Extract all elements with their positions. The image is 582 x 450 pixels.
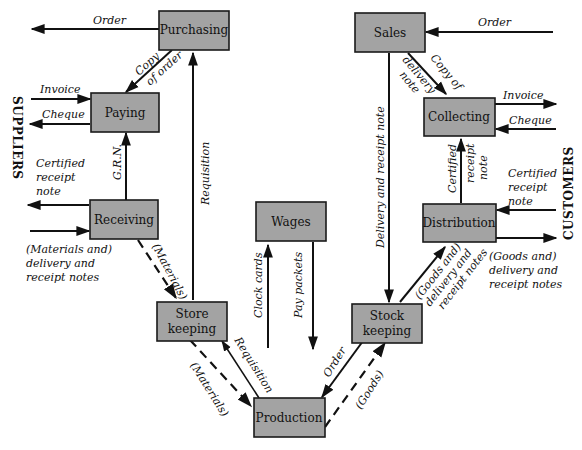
label-purchasing-order: Order (93, 14, 127, 27)
label-dist-cert-2: receipt (464, 143, 477, 183)
label-materials-to-production: (Materials) (187, 360, 231, 419)
svg-text:Paying: Paying (105, 106, 146, 120)
box-stock-keeping: Stock keeping (352, 304, 422, 343)
flow-diagram: SUPPLIERS CUSTOMERS Order Copy of order … (0, 0, 582, 450)
suppliers-label: SUPPLIERS (10, 96, 24, 180)
box-purchasing: Purchasing (159, 11, 229, 50)
svg-text:Store: Store (175, 307, 208, 321)
svg-text:Purchasing: Purchasing (160, 23, 229, 37)
box-store-keeping: Store keeping (157, 302, 227, 341)
label-dist-out-1: (Goods and) (489, 250, 556, 263)
label-receiving-in-2: delivery and (26, 257, 95, 270)
label-paying-cheque: Cheque (42, 108, 85, 121)
box-receiving: Receiving (90, 200, 158, 239)
label-paying-invoice: Invoice (39, 83, 81, 96)
label-cust-cert-2: receipt (508, 181, 548, 194)
svg-text:Receiving: Receiving (94, 213, 154, 227)
label-receiving-cert-2: receipt (36, 171, 76, 184)
svg-text:Collecting: Collecting (428, 110, 490, 124)
label-cust-cert-3: note (508, 195, 533, 208)
label-dist-cert-1: Certified (446, 144, 459, 193)
label-receiving-cert-3: note (36, 185, 61, 198)
svg-text:Sales: Sales (374, 26, 406, 40)
label-receiving-cert-1: Certified (36, 157, 85, 170)
svg-text:Production: Production (256, 411, 323, 425)
label-cust-cert-1: Certified (508, 167, 557, 180)
label-dist-cert-3: note (477, 155, 490, 180)
label-sales-order: Order (478, 16, 512, 29)
svg-text:keeping: keeping (363, 324, 412, 338)
svg-text:keeping: keeping (168, 322, 217, 336)
box-paying: Paying (91, 93, 159, 132)
label-receiving-in-1: (Materials and) (26, 243, 112, 256)
box-distribution: Distribution (422, 204, 496, 242)
label-order-production: Order (321, 344, 350, 380)
label-delivery-receipt: Delivery and receipt note (374, 106, 387, 249)
label-materials-to-store: (Materials) (149, 241, 190, 302)
label-collecting-cheque: Cheque (509, 114, 552, 127)
svg-text:Stock: Stock (370, 309, 405, 323)
svg-text:Distribution: Distribution (422, 216, 495, 230)
box-sales: Sales (355, 13, 425, 52)
label-collecting-invoice: Invoice (502, 89, 544, 102)
box-production: Production (254, 398, 325, 437)
svg-text:Wages: Wages (271, 215, 310, 229)
label-receiving-in-3: receipt notes (26, 271, 100, 284)
label-goods-production: (Goods) (353, 368, 387, 412)
customers-label: CUSTOMERS (562, 146, 576, 240)
label-grn: G.R.N. (111, 144, 124, 180)
label-pay-packets: Pay packets (292, 251, 305, 319)
label-dist-out-2: delivery and (489, 264, 558, 277)
box-wages: Wages (256, 202, 326, 241)
label-clock-cards: Clock cards (252, 252, 265, 318)
box-collecting: Collecting (424, 98, 495, 136)
label-requisition-up: Requisition (199, 142, 212, 206)
label-dist-out-3: receipt notes (489, 278, 563, 291)
